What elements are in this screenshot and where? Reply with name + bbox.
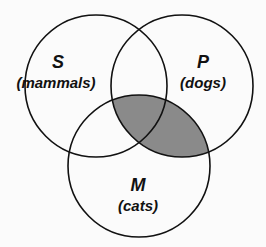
label-p-description: (dogs) (180, 74, 226, 91)
label-s-letter: S (52, 52, 64, 72)
venn-diagram: S (mammals) P (dogs) M (cats) (0, 0, 266, 247)
label-s-description: (mammals) (16, 74, 95, 91)
label-p-letter: P (197, 52, 210, 72)
label-m-description: (cats) (118, 197, 158, 214)
label-m-letter: M (131, 175, 147, 195)
